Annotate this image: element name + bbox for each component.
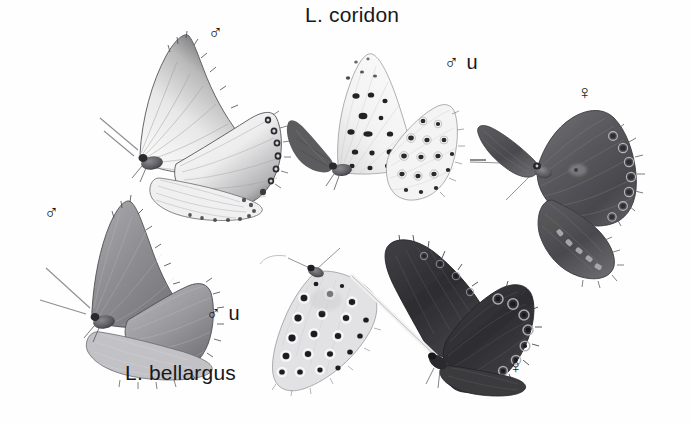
butterfly-plate: L. coridon L. bellargus ♂ ♂ u ♀ ♂ ♂ u ♀ xyxy=(0,0,693,423)
male-symbol-bellargus-upperside: ♂ xyxy=(44,202,60,222)
specimen-coridon-male-upperside xyxy=(100,31,291,222)
species-label-bellargus: L. bellargus xyxy=(125,362,236,383)
male-underside-label-coridon: ♂ u xyxy=(444,52,479,72)
male-underside-label-bellargus: ♂ u xyxy=(206,303,241,323)
butterfly-artwork xyxy=(0,0,693,423)
specimen-bellargus-male-upperside xyxy=(40,195,224,389)
specimen-coridon-male-underside xyxy=(287,54,465,200)
male-symbol-coridon-upperside: ♂ xyxy=(208,22,224,42)
specimen-bellargus-male-underside xyxy=(260,248,381,396)
species-label-coridon: L. coridon xyxy=(305,4,399,25)
female-symbol-bellargus: ♀ xyxy=(508,356,524,376)
female-symbol-coridon: ♀ xyxy=(577,82,593,102)
specimen-coridon-female-upperside xyxy=(470,111,645,289)
